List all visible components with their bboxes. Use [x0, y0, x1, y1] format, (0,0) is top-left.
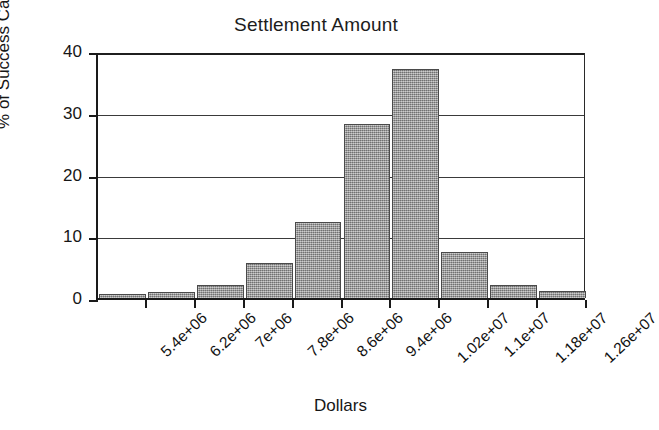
bar: [295, 222, 342, 298]
x-tick-mark-9: [585, 300, 587, 308]
x-tick-label-1: 6.2e+06: [206, 309, 260, 361]
bar: [197, 285, 244, 298]
x-tick-label-6: 1.02e+07: [453, 309, 513, 367]
chart-title: Settlement Amount: [0, 14, 616, 36]
bar: [392, 69, 439, 298]
y-tick-mark-0: [89, 300, 98, 302]
x-tick-mark-4: [341, 300, 343, 308]
x-tick-label-2: 7e+06: [252, 309, 296, 352]
x-tick-mark-5: [389, 300, 391, 308]
y-tick-label-10: 10: [30, 227, 82, 247]
x-tick-mark-0: [145, 300, 147, 308]
x-tick-label-4: 8.6e+06: [353, 309, 407, 361]
bar-series: [98, 53, 584, 298]
bar: [441, 252, 488, 298]
y-tick-label-30: 30: [30, 104, 82, 124]
bar: [148, 292, 195, 298]
y-tick-label-40: 40: [30, 42, 82, 62]
x-axis-title: Dollars: [96, 396, 585, 416]
y-axis-title: % of Success Cases: [0, 0, 14, 176]
x-tick-label-5: 9.4e+06: [402, 309, 456, 361]
bar: [99, 294, 146, 298]
x-tick-mark-7: [487, 300, 489, 308]
x-tick-mark-6: [438, 300, 440, 308]
x-tick-label-8: 1.18e+07: [551, 309, 611, 367]
y-tick-label-20: 20: [30, 166, 82, 186]
x-tick-label-3: 7.8e+06: [304, 309, 358, 361]
bar: [490, 285, 537, 298]
y-tick-label-0: 0: [30, 289, 82, 309]
bar: [344, 124, 391, 298]
x-tick-mark-8: [536, 300, 538, 308]
plot-area: [96, 53, 585, 300]
bar: [539, 291, 586, 298]
x-tick-mark-2: [243, 300, 245, 308]
x-tick-label-9: 1.26e+07: [600, 309, 659, 367]
chart-title-text: Settlement Amount: [234, 14, 398, 35]
x-tick-label-0: 5.4e+06: [158, 309, 212, 361]
bar: [246, 263, 293, 298]
x-tick-mark-1: [194, 300, 196, 308]
x-tick-mark-3: [292, 300, 294, 308]
